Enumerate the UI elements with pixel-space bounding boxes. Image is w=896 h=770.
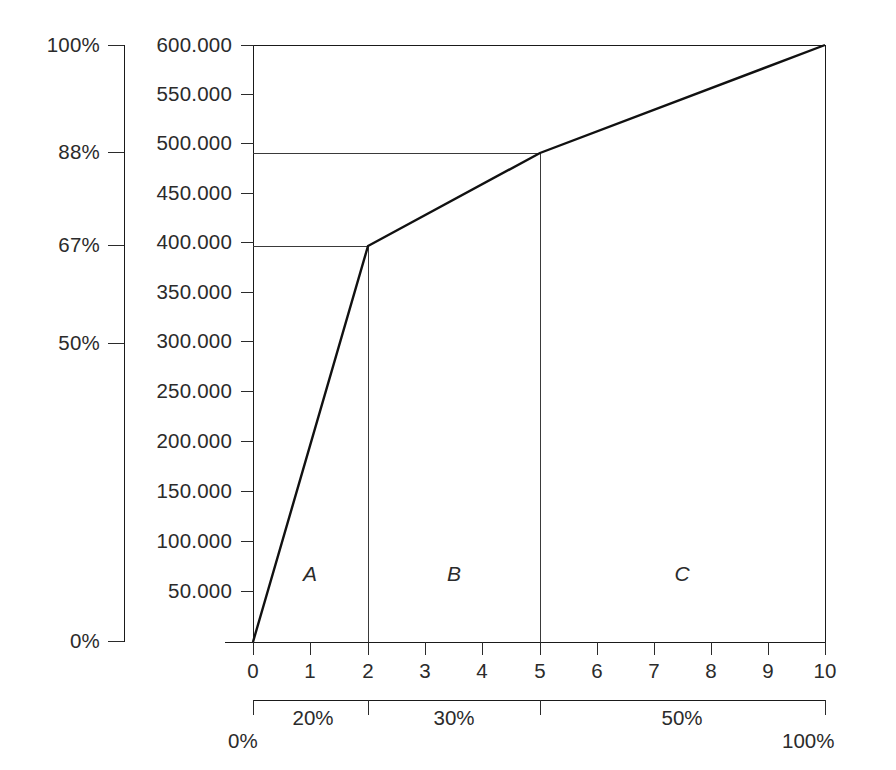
- value-tick-250000: [241, 391, 254, 392]
- x-label-0: 0: [228, 659, 278, 683]
- value-tick-500000: [241, 143, 254, 144]
- value-label-400000: 400.000: [110, 230, 232, 254]
- x-tick-10: [825, 642, 826, 655]
- value-tick-100000: [241, 541, 254, 542]
- x-tick-6: [597, 642, 598, 655]
- x-tick-1: [310, 642, 311, 655]
- value-tick-150000: [241, 491, 254, 492]
- x-label-7: 7: [629, 659, 679, 683]
- percent-label-100: 100%: [8, 33, 100, 57]
- region-label-a: A: [280, 562, 340, 586]
- region-label-b: B: [424, 562, 484, 586]
- bracket-tick-end: [825, 700, 826, 715]
- bracket-label-end: 100%: [782, 729, 834, 753]
- x-label-8: 8: [686, 659, 736, 683]
- value-tick-200000: [241, 441, 254, 442]
- x-label-6: 6: [572, 659, 622, 683]
- plot-right-border: [825, 45, 826, 642]
- plot-bottom-axis: [225, 642, 826, 643]
- chart-canvas: 100% 88% 67% 50% 0% 600.000 550.000 500.…: [0, 0, 896, 770]
- drop-line-x2: [368, 246, 369, 642]
- x-label-10: 10: [800, 659, 850, 683]
- value-tick-400000: [241, 242, 254, 243]
- x-label-1: 1: [285, 659, 335, 683]
- bracket-label-start: 0%: [228, 729, 258, 753]
- plot-left-axis: [253, 45, 254, 642]
- value-label-250000: 250.000: [110, 379, 232, 403]
- value-label-500000: 500.000: [110, 131, 232, 155]
- x-tick-2: [368, 642, 369, 655]
- value-label-350000: 350.000: [110, 280, 232, 304]
- bracket-tick-bc: [540, 700, 541, 715]
- value-label-100000: 100.000: [110, 529, 232, 553]
- value-label-450000: 450.000: [110, 181, 232, 205]
- value-tick-50000: [241, 591, 254, 592]
- x-label-2: 2: [343, 659, 393, 683]
- reference-line-67-percent: [253, 246, 369, 247]
- bracket-label-c: 50%: [637, 706, 727, 730]
- curve-polyline: [253, 45, 825, 642]
- plot-top-border: [253, 45, 826, 46]
- percent-label-50: 50%: [8, 331, 100, 355]
- x-tick-5: [540, 642, 541, 655]
- x-tick-4: [482, 642, 483, 655]
- x-label-4: 4: [457, 659, 507, 683]
- value-tick-350000: [241, 292, 254, 293]
- reference-line-88-percent: [253, 153, 541, 154]
- percent-tick-0: [108, 641, 124, 642]
- x-tick-0: [253, 642, 254, 655]
- drop-line-x5: [540, 153, 541, 642]
- value-tick-450000: [241, 193, 254, 194]
- bracket-label-b: 30%: [409, 706, 499, 730]
- value-tick-550000: [241, 94, 254, 95]
- x-tick-9: [768, 642, 769, 655]
- value-label-200000: 200.000: [110, 429, 232, 453]
- x-tick-7: [654, 642, 655, 655]
- x-label-9: 9: [743, 659, 793, 683]
- value-label-150000: 150.000: [110, 479, 232, 503]
- x-tick-3: [425, 642, 426, 655]
- value-label-550000: 550.000: [110, 82, 232, 106]
- value-label-300000: 300.000: [110, 329, 232, 353]
- x-label-3: 3: [400, 659, 450, 683]
- bracket-label-a: 20%: [268, 706, 358, 730]
- value-label-600000: 600.000: [110, 33, 232, 57]
- x-tick-8: [711, 642, 712, 655]
- percent-label-67: 67%: [8, 233, 100, 257]
- value-label-50000: 50.000: [110, 579, 232, 603]
- value-tick-600000: [241, 45, 254, 46]
- x-label-5: 5: [515, 659, 565, 683]
- percent-label-0: 0%: [8, 629, 100, 653]
- region-label-c: C: [652, 562, 712, 586]
- bracket-tick-ab: [368, 700, 369, 715]
- bracket-tick-start: [253, 700, 254, 715]
- percent-label-88: 88%: [8, 140, 100, 164]
- value-tick-300000: [241, 341, 254, 342]
